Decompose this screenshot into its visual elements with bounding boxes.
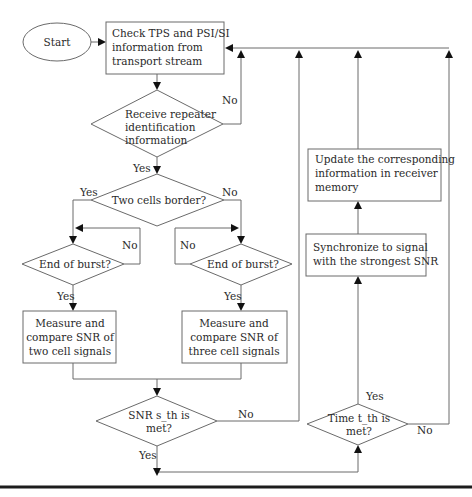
node-measure-two: Measure and compare SNR of two cell sign…: [23, 311, 116, 363]
arrowhead-down-icon: [237, 303, 245, 311]
receive-label-line: Receive repeater: [125, 108, 217, 120]
label-burst-right-yes: Yes: [223, 290, 242, 302]
node-start: Start: [23, 23, 91, 61]
label-border-yes: Yes: [79, 186, 98, 198]
node-synchronize: Synchronize to signal with the strongest…: [306, 234, 439, 276]
node-measure-three: Measure and compare SNR of three cell si…: [182, 311, 287, 363]
node-end-of-burst-left: End of burst?: [22, 244, 124, 285]
sync-label-line: with the strongest SNR: [313, 255, 439, 267]
arrowhead-down-icon: [153, 388, 161, 396]
arrowhead-left-icon: [225, 44, 233, 52]
node-update-memory: Update the corresponding information in …: [308, 149, 455, 201]
arrowhead-right-icon: [98, 38, 106, 46]
label-burst-right-no: No: [180, 239, 196, 251]
arrowhead-left-icon: [75, 224, 83, 232]
node-check-tps: Check TPS and PSI/SI information from tr…: [106, 22, 230, 74]
edge-border-yes: [73, 200, 91, 238]
update-label-line: Update the corresponding: [315, 153, 455, 165]
edge-snr-no: [217, 54, 299, 421]
label-receive-no: No: [222, 94, 238, 106]
node-time-threshold: Time t_th is met?: [307, 404, 408, 445]
update-label-line: information in receiver: [315, 167, 439, 179]
measure-three-label-line: compare SNR of: [190, 331, 279, 343]
edge-snr-yes: [157, 446, 358, 472]
arrowhead-right-icon: [231, 224, 239, 232]
node-snr-threshold: SNR s_th is met?: [96, 396, 217, 446]
label-burst-left-no: No: [122, 239, 138, 251]
flowchart-canvas: Start Check TPS and PSI/SI information f…: [0, 0, 472, 497]
arrowhead-down-icon: [153, 166, 161, 174]
update-label-line: memory: [315, 181, 358, 193]
label-time-yes: Yes: [365, 390, 384, 402]
arrowhead-down-icon: [69, 236, 77, 244]
arrowhead-down-icon: [237, 236, 245, 244]
label-time-no: No: [417, 424, 433, 436]
burst-right-label: End of burst?: [207, 258, 279, 270]
measure-three-label-line: Measure and: [199, 317, 269, 329]
edge-receive-no: [223, 54, 241, 124]
label-snr-no: No: [238, 408, 254, 420]
start-label: Start: [44, 36, 72, 48]
label-border-no: No: [222, 186, 238, 198]
label-receive-yes: Yes: [132, 162, 151, 174]
flowchart-svg: Start Check TPS and PSI/SI information f…: [0, 0, 472, 497]
snr-label-line: met?: [146, 422, 172, 434]
node-receive-repeater: Receive repeater identification informat…: [91, 90, 223, 157]
arrowhead-up-icon: [354, 276, 362, 284]
arrowhead-up-icon: [445, 50, 453, 58]
label-burst-left-yes: Yes: [56, 290, 75, 302]
measure-two-label-line: two cell signals: [29, 345, 111, 357]
check-label-line: information from: [112, 41, 203, 53]
snr-diamond: [96, 396, 217, 446]
check-label-line: transport stream: [112, 55, 202, 67]
measure-three-label-line: three cell signals: [188, 345, 279, 357]
node-two-cells-border: Two cells border?: [91, 174, 224, 226]
label-snr-yes: Yes: [138, 449, 157, 461]
time-label-line: Time t_th is: [328, 412, 390, 425]
edge-border-no: [224, 200, 241, 238]
check-label-line: Check TPS and PSI/SI: [112, 27, 230, 39]
border-label: Two cells border?: [112, 194, 207, 206]
burst-left-label: End of burst?: [39, 258, 111, 270]
arrowhead-down-icon: [69, 303, 77, 311]
snr-label-line: SNR s_th is: [128, 409, 189, 422]
edge-measure-join: [73, 363, 241, 379]
arrowhead-up-icon: [354, 445, 362, 453]
measure-two-label-line: compare SNR of: [26, 331, 115, 343]
time-label-line: met?: [346, 425, 372, 437]
arrowhead-down-icon: [153, 82, 161, 90]
measure-two-label-line: Measure and: [35, 317, 105, 329]
arrowhead-up-icon: [295, 50, 303, 58]
arrowhead-up-icon: [237, 50, 245, 58]
receive-label-line: identification: [125, 121, 196, 133]
sync-label-line: Synchronize to signal: [313, 241, 428, 253]
arrowhead-up-icon: [354, 201, 362, 209]
receive-label-line: information: [125, 134, 187, 146]
node-end-of-burst-right: End of burst?: [190, 244, 292, 285]
arrowhead-up-icon: [354, 50, 362, 58]
